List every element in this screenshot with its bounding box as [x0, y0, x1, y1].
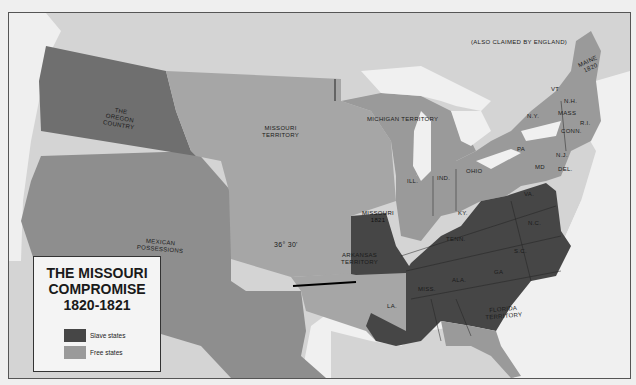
label-conn: CONN. [561, 128, 582, 135]
label-la: LA. [387, 303, 397, 310]
label-ind: IND. [437, 175, 450, 182]
label-ky: KY. [458, 210, 468, 217]
label-pa: PA [517, 146, 525, 153]
label-ny: N.Y. [527, 113, 539, 120]
legend-item-free: Free states [64, 346, 123, 359]
label-nc: N.C. [528, 220, 541, 227]
label-ri: R.I. [580, 120, 591, 127]
label-ill: ILL. [407, 178, 418, 185]
label-md: MD [535, 164, 545, 171]
label-ala: ALA. [452, 277, 466, 284]
legend: THE MISSOURI COMPROMISE 1820-1821 Slave … [33, 256, 161, 372]
label-del: DEL. [558, 166, 573, 173]
label-missouri: MISSOURI1821 [362, 210, 394, 224]
label-arkansas-territory: ARKANSASTERRITORY [341, 252, 378, 266]
label-ohio: OHIO [466, 168, 483, 175]
label-sc: S.C. [514, 248, 527, 255]
label-claim-note: (ALSO CLAIMED BY ENGLAND) [471, 39, 567, 46]
label-nj: N.J. [556, 152, 568, 159]
label-tenn: TENN. [446, 236, 466, 243]
slave-swatch [64, 329, 86, 342]
label-latitude: 36° 30' [274, 241, 298, 249]
label-vt: VT [551, 86, 559, 93]
free-swatch [64, 346, 86, 359]
label-ga: GA [494, 269, 503, 276]
label-michigan-territory: MICHIGAN TERRITORY [367, 116, 438, 123]
label-va: VA. [524, 191, 534, 198]
label-nh: N.H. [564, 98, 577, 105]
label-missouri-territory: MISSOURITERRITORY [262, 125, 299, 139]
label-mass: MASS [558, 110, 576, 117]
legend-title: THE MISSOURI COMPROMISE 1820-1821 [34, 265, 160, 313]
label-miss: MISS. [418, 286, 436, 293]
legend-item-slave: Slave states [64, 329, 125, 342]
